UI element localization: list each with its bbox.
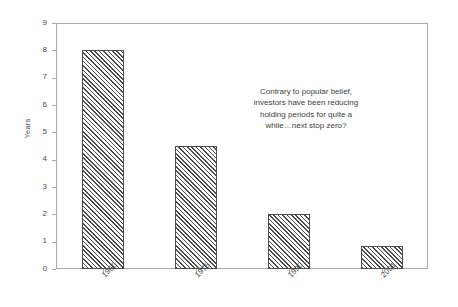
annotation-line-3: holding periods for quite a: [218, 109, 394, 120]
bar-chart: Years 0123456789 1960197519902001 Contra…: [0, 0, 458, 307]
annotation-line-2: investors have been reducing: [218, 97, 394, 108]
annotation-line-4: while…next stop zero?: [218, 120, 394, 131]
bars-layer: 1960197519902001: [0, 0, 458, 307]
annotation-line-1: Contrary to popular belief,: [218, 86, 394, 97]
bar: [268, 214, 310, 269]
bar: [175, 146, 217, 269]
chart-annotation: Contrary to popular belief, investors ha…: [218, 86, 394, 132]
bar: [82, 50, 124, 269]
